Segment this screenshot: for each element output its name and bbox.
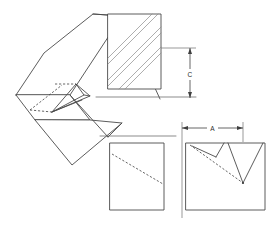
section-view-hatched: C <box>96 14 196 98</box>
technical-drawing-canvas: C A <box>0 0 277 225</box>
dim-a-arrow-left <box>182 126 188 130</box>
dimension-c: C <box>185 48 195 98</box>
isometric-top-face <box>16 14 122 95</box>
front-view: A <box>182 122 265 218</box>
dim-a-arrow-right <box>237 126 243 130</box>
side-view-outline <box>110 143 164 210</box>
isometric-mid-band <box>16 95 90 120</box>
front-view-outline <box>186 143 265 210</box>
dim-a-label: A <box>210 125 215 132</box>
isometric-bottom-face <box>35 120 122 165</box>
front-view-v-vertex <box>242 182 244 184</box>
side-view <box>100 136 176 210</box>
engineering-drawing: C A <box>0 0 277 225</box>
dim-c-arrow-top <box>188 48 192 54</box>
dimension-a: A <box>182 123 243 133</box>
dim-c-label: C <box>188 71 193 78</box>
